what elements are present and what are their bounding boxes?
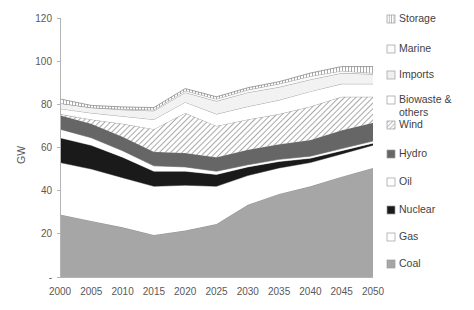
legend-swatch-biowaste — [387, 96, 395, 104]
x-axis-tick-labels: 2000200520102015202020252030203520402045… — [49, 286, 385, 297]
x-tick-label: 2035 — [268, 286, 291, 297]
x-tick-label: 2040 — [299, 286, 322, 297]
y-tick-label: - — [49, 272, 52, 283]
chart-container: -20406080100120 200020052010201520202025… — [0, 0, 474, 310]
legend-swatch-marine — [387, 45, 395, 53]
y-tick-label: 80 — [41, 99, 53, 110]
legend-label-coal: Coal — [399, 257, 421, 269]
legend-swatch-imports — [387, 71, 395, 79]
y-tick-label: 40 — [41, 185, 53, 196]
legend-label-hydro: Hydro — [399, 147, 427, 159]
x-tick-label: 2045 — [331, 286, 354, 297]
x-tick-label: 2030 — [237, 286, 260, 297]
legend-label-biowaste: Biowaste & — [399, 93, 452, 105]
legend-swatch-storage — [387, 15, 395, 23]
x-tick-label: 2020 — [174, 286, 197, 297]
legend-swatch-wind — [387, 121, 395, 129]
x-tick-label: 2050 — [362, 286, 385, 297]
x-tick-label: 2005 — [80, 286, 103, 297]
legend-label-oil: Oil — [399, 175, 412, 187]
y-tick-label: 20 — [41, 228, 53, 239]
legend-swatch-oil — [387, 178, 395, 186]
x-tick-label: 2010 — [111, 286, 134, 297]
legend-swatch-nuclear — [387, 206, 395, 214]
legend-label-gas: Gas — [399, 230, 418, 242]
y-axis-title: GW — [15, 146, 27, 164]
legend-label-biowaste-line2: others — [399, 106, 428, 118]
y-tick-label: 100 — [35, 56, 52, 67]
legend-swatch-coal — [387, 260, 395, 268]
y-tick-label: 60 — [41, 142, 53, 153]
legend-label-imports: Imports — [399, 68, 434, 80]
legend-swatch-gas — [387, 233, 395, 241]
legend-label-marine: Marine — [399, 42, 431, 54]
stacked-area-chart: -20406080100120 200020052010201520202025… — [0, 0, 474, 310]
x-tick-label: 2015 — [143, 286, 166, 297]
x-tick-label: 2025 — [205, 286, 228, 297]
legend-label-wind: Wind — [399, 118, 423, 130]
y-tick-label: 120 — [35, 13, 52, 24]
x-tick-label: 2000 — [49, 286, 72, 297]
legend-swatch-hydro — [387, 150, 395, 158]
legend-label-nuclear: Nuclear — [399, 203, 436, 215]
legend-label-storage: Storage — [399, 12, 436, 24]
